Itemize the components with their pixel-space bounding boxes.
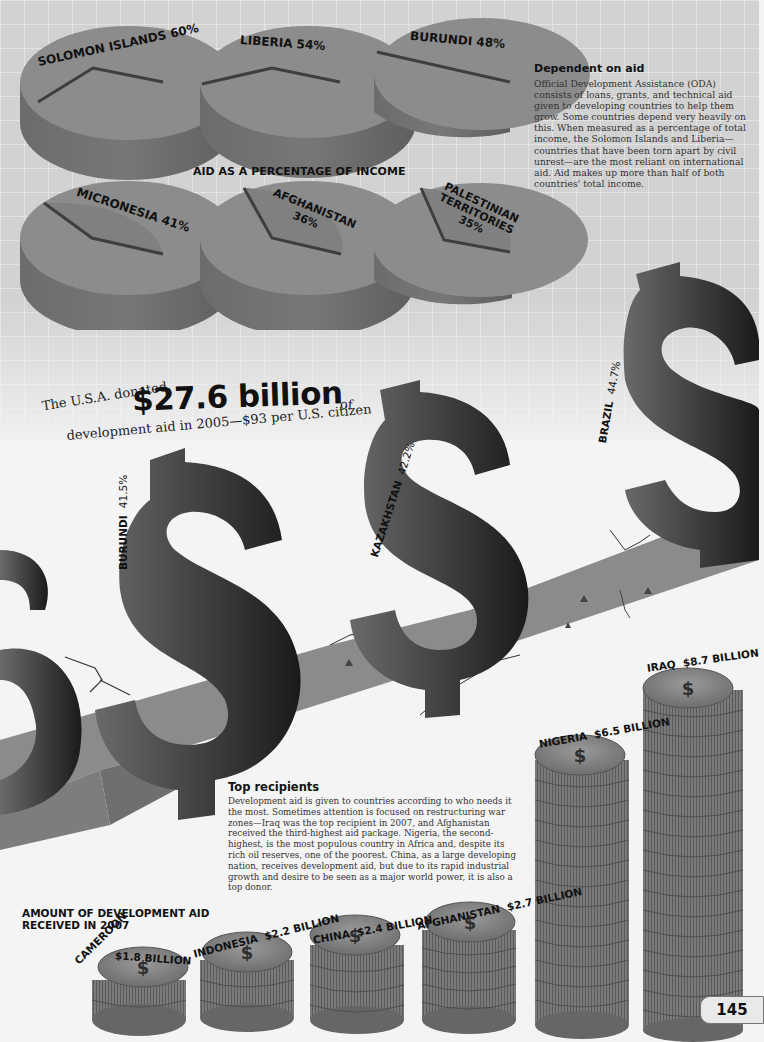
dependent-on-aid-box: Dependent on aid Official Development As… — [534, 62, 756, 189]
coin-stacks-graphic: $ $ $ $ $ $ — [0, 640, 759, 1042]
page-number-tab: 145 — [700, 996, 764, 1024]
dependent-on-aid-title: Dependent on aid — [534, 62, 756, 75]
pie-section-title: AID AS A PERCENTAGE OF INCOME — [193, 165, 405, 178]
svg-text:$: $ — [574, 745, 587, 766]
dollar-label-burundi-value: 41.5% — [117, 475, 129, 508]
dollar-sign-brazil — [624, 262, 759, 568]
svg-text:$: $ — [682, 678, 695, 699]
dollar-label-burundi-country: BURUNDI — [117, 515, 129, 570]
dollar-label-burundi: BURUNDI 41.5% — [117, 475, 129, 570]
dependent-on-aid-body: Official Development Assistance (ODA) co… — [534, 78, 756, 189]
